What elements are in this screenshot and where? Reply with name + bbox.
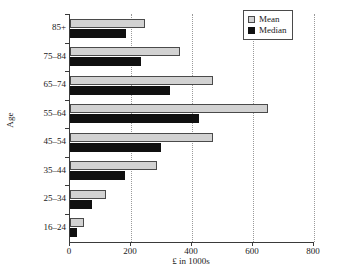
y-tick-label-25-34: 25–34	[44, 193, 67, 203]
median-swatch-icon	[248, 27, 255, 34]
x-tick-label-400: 400	[171, 246, 211, 256]
x-tick-label-600: 600	[232, 246, 272, 256]
plot-area	[69, 14, 314, 242]
y-tick-mark-5	[65, 157, 69, 158]
bar-mean-85+	[70, 19, 145, 28]
y-tick-label-55-64: 55–64	[44, 108, 67, 118]
legend-item-median: Median	[248, 25, 287, 36]
bar-median-45-54	[70, 143, 161, 152]
x-axis-title: £ in 1000s	[69, 256, 313, 266]
legend-label-mean: Mean	[259, 15, 280, 24]
y-tick-label-35-44: 35–44	[44, 165, 67, 175]
y-tick-label-85+: 85+	[52, 22, 66, 32]
y-tick-mark-0	[65, 14, 69, 15]
bar-median-85+	[70, 29, 126, 38]
chart-legend: Mean Median	[243, 10, 293, 40]
y-tick-label-16-24: 16–24	[44, 222, 67, 232]
bar-median-55-64	[70, 114, 199, 123]
legend-label-median: Median	[259, 26, 287, 35]
y-tick-label-45-54: 45–54	[44, 136, 67, 146]
gridline-400	[192, 14, 193, 242]
x-tick-label-0: 0	[49, 246, 89, 256]
bar-mean-65-74	[70, 76, 213, 85]
bar-mean-75-84	[70, 47, 180, 56]
gridline-800	[314, 14, 315, 242]
mean-swatch-icon	[248, 16, 255, 23]
y-axis-title-label: Age	[5, 112, 15, 128]
bar-mean-25-34	[70, 190, 106, 199]
y-tick-label-75-84: 75–84	[44, 51, 67, 61]
bar-mean-45-54	[70, 133, 213, 142]
legend-item-mean: Mean	[248, 14, 287, 25]
x-tick-label-800: 800	[293, 246, 333, 256]
y-tick-mark-2	[65, 71, 69, 72]
bar-chart: Age 0200400600800 16–2425–3435–4445–5455…	[0, 0, 338, 277]
bar-mean-55-64	[70, 104, 268, 113]
bar-median-65-74	[70, 86, 170, 95]
y-tick-label-65-74: 65–74	[44, 79, 67, 89]
y-axis-title: Age	[2, 0, 18, 240]
bar-mean-16-24	[70, 218, 84, 227]
y-tick-mark-6	[65, 185, 69, 186]
bar-median-16-24	[70, 228, 77, 237]
y-tick-mark-4	[65, 128, 69, 129]
y-tick-mark-7	[65, 214, 69, 215]
bar-median-35-44	[70, 171, 125, 180]
y-tick-mark-3	[65, 100, 69, 101]
x-tick-label-200: 200	[110, 246, 150, 256]
gridline-600	[253, 14, 254, 242]
bar-mean-35-44	[70, 161, 157, 170]
bar-median-25-34	[70, 200, 92, 209]
y-tick-mark-1	[65, 43, 69, 44]
bar-median-75-84	[70, 57, 141, 66]
